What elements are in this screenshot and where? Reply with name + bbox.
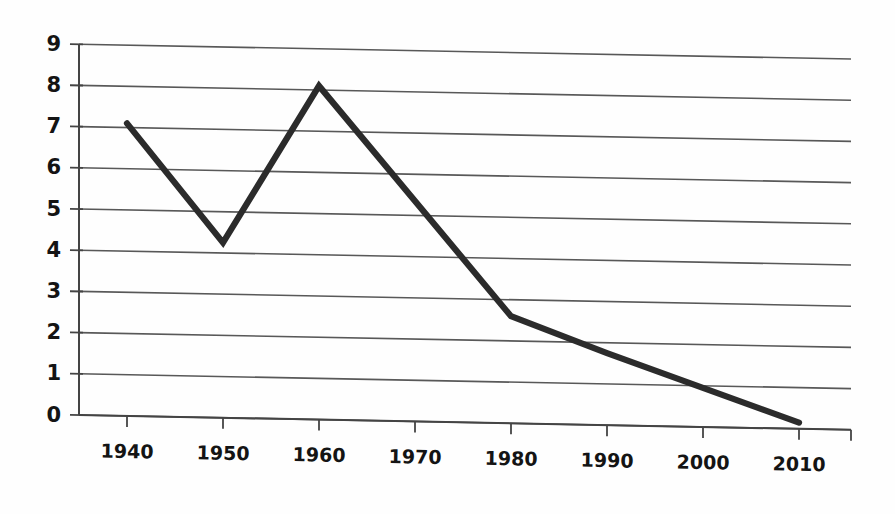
gridline-y-3 xyxy=(79,291,851,306)
data-line-series-1 xyxy=(127,86,799,423)
y-tick-labels-group: 0123456789 xyxy=(46,32,61,427)
data-series-group xyxy=(127,86,799,423)
gridline-y-7 xyxy=(79,127,851,142)
x-tick-label-1980: 1980 xyxy=(484,447,537,470)
x-tick-label-1990: 1990 xyxy=(580,449,633,472)
y-tick-label-9: 9 xyxy=(46,32,61,56)
x-axis-line xyxy=(79,415,851,430)
gridlines-group xyxy=(79,44,851,430)
x-axis-group xyxy=(79,415,851,441)
chart-canvas: 0123456789 19401950196019701980199020002… xyxy=(0,0,895,514)
x-tick-label-1940: 1940 xyxy=(100,439,153,462)
y-tick-label-4: 4 xyxy=(46,238,61,262)
y-tick-label-0: 0 xyxy=(46,403,61,427)
y-axis-group xyxy=(70,44,83,415)
x-tick-label-2000: 2000 xyxy=(676,450,729,473)
x-tick-label-2010: 2010 xyxy=(772,452,825,475)
x-tick-label-1950: 1950 xyxy=(196,441,249,464)
gridline-y-2 xyxy=(79,333,851,348)
y-tick-label-7: 7 xyxy=(46,114,61,138)
x-tick-label-1970: 1970 xyxy=(388,445,441,468)
y-tick-label-8: 8 xyxy=(46,73,61,97)
y-tick-label-3: 3 xyxy=(46,279,61,303)
gridline-y-9 xyxy=(79,44,851,59)
x-tick-label-1960: 1960 xyxy=(292,443,345,466)
line-chart-figure: 0123456789 19401950196019701980199020002… xyxy=(0,0,895,514)
y-tick-label-5: 5 xyxy=(46,197,61,221)
gridline-y-6 xyxy=(79,168,851,183)
gridline-y-1 xyxy=(79,374,851,389)
x-tick-labels-group: 19401950196019701980199020002010 xyxy=(100,439,825,475)
y-tick-label-1: 1 xyxy=(46,361,61,385)
gridline-y-8 xyxy=(79,85,851,100)
y-tick-label-6: 6 xyxy=(46,155,61,179)
y-tick-label-2: 2 xyxy=(46,320,61,344)
